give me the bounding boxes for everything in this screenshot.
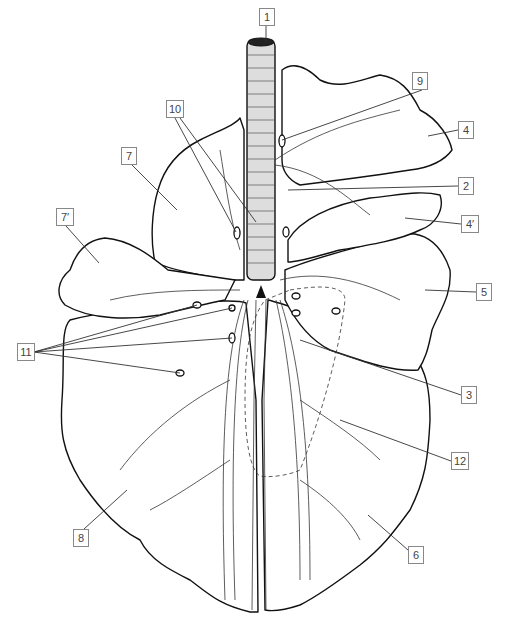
lymph-node bbox=[292, 310, 300, 316]
label-5: 5 bbox=[476, 283, 492, 301]
label-6: 6 bbox=[408, 546, 424, 564]
label-4: 4 bbox=[458, 121, 474, 139]
label-10: 10 bbox=[166, 100, 184, 118]
label-11: 11 bbox=[17, 343, 35, 361]
lymph-node bbox=[234, 227, 240, 239]
lymph-node bbox=[332, 308, 340, 314]
lymph-node bbox=[292, 293, 300, 299]
label-12: 12 bbox=[451, 452, 469, 470]
trachea bbox=[247, 40, 275, 280]
label-7-prime: 7′ bbox=[56, 208, 74, 226]
lymph-node bbox=[283, 227, 289, 237]
label-3: 3 bbox=[461, 386, 477, 404]
trachea-lumen bbox=[248, 38, 274, 46]
label-1: 1 bbox=[259, 8, 275, 26]
label-4-prime: 4′ bbox=[461, 215, 479, 233]
lymph-node bbox=[279, 135, 285, 147]
label-9: 9 bbox=[412, 72, 428, 90]
label-7: 7 bbox=[121, 147, 137, 165]
label-8: 8 bbox=[73, 529, 89, 547]
bifurcation-triangle-marker bbox=[256, 285, 266, 298]
label-2: 2 bbox=[458, 177, 474, 195]
